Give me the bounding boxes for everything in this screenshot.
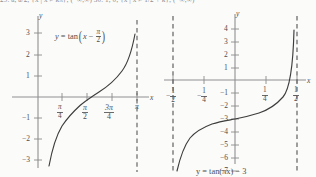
y-tick-label-3-right: 3 [224, 38, 228, 46]
y-tick-label-neg4-right: −4 [220, 128, 228, 136]
equation-open-paren: ( [79, 31, 82, 42]
y-tick-label-1-right: 1 [224, 64, 228, 72]
y-tick-label-1-left: 1 [26, 72, 30, 80]
x-tick-label-3pi-over-4-left: 3π 4 [104, 103, 114, 121]
equation-label-left: y = tan(x − π 2 ) [55, 29, 106, 45]
x-tick-numerator: π [82, 104, 88, 112]
equation-function: tan [68, 33, 78, 41]
x-tick-label-pi-over-4-left: π 4 [57, 103, 63, 120]
y-tick-label-neg2-left: −2 [22, 135, 30, 143]
x-tick-numerator: 1 [293, 87, 299, 94]
x-tick-denominator: 4 [104, 112, 114, 121]
equation-caption-right: y = tan(πx) − 3 [196, 168, 246, 176]
figure-page: 29. a, a/2; {x | x ≠ kπ}; (−∞,∞) 30. 1, … [0, 0, 316, 177]
x-tick-denominator: 4 [201, 96, 207, 104]
y-tick-label-2-left: 2 [26, 51, 30, 59]
y-tick-label-neg1-left: −1 [22, 114, 30, 122]
x-tick-sign: − [197, 92, 201, 100]
y-tick-label-neg5-right: −5 [220, 141, 228, 149]
chart-tan-x-minus-pi-over-2: y x 3 2 1 −1 −2 −3 π 4 π 2 3π 4 [0, 8, 156, 177]
answer-key-text: 29. a, a/2; {x | x ≠ kπ}; (−∞,∞) 30. 1, … [0, 0, 194, 4]
x-tick-denominator: 2 [170, 96, 176, 104]
x-tick-denominator: 2 [82, 112, 88, 121]
y-tick-label-neg2-right: −2 [220, 102, 228, 110]
y-tick-label-neg1-right: −1 [220, 89, 228, 97]
x-tick-denominator: 4 [57, 112, 63, 120]
x-tick-numerator: 1 [170, 88, 176, 95]
y-tick-label-neg3-left: −3 [22, 156, 30, 164]
equation-minus-sign: − [89, 33, 94, 41]
chart-tan-pi-x-minus-3: y x 4 3 2 1 −1 −2 −3 −4 −5 −6 −7 − 1 2 −… [156, 8, 316, 177]
equation-inner-fraction: π 2 [96, 29, 102, 45]
equation-inner-variable: x [83, 33, 87, 41]
x-tick-numerator: 3π [104, 104, 114, 112]
x-tick-label-neg-half-right: − 1 2 [166, 86, 176, 104]
equation-fraction-denominator: 2 [96, 36, 102, 44]
y-tick-label-3-left: 3 [26, 29, 30, 37]
x-axis-label-left: x [150, 94, 153, 102]
equation-close-paren: ) [102, 31, 105, 42]
asymptote-label-pi-left: π [135, 103, 139, 111]
plot-area-right [156, 8, 316, 177]
y-axis-label-left: y [39, 12, 42, 20]
x-tick-denominator: 2 [293, 95, 299, 103]
equation-equals: = [61, 33, 66, 41]
x-tick-label-pi-over-2-left: π 2 [82, 103, 88, 121]
x-tick-numerator: 1 [201, 88, 207, 95]
y-axis-label-right: y [236, 10, 239, 18]
x-tick-numerator: 1 [262, 87, 268, 94]
x-tick-numerator: π [57, 104, 63, 111]
plot-svg-right [156, 8, 316, 177]
y-tick-label-neg6-right: −6 [220, 154, 228, 162]
x-tick-label-quarter-right: 1 4 [262, 86, 268, 103]
y-tick-label-4-right: 4 [224, 25, 228, 33]
y-tick-label-neg3-right: −3 [220, 115, 228, 123]
x-tick-label-half-right: 1 2 [293, 86, 299, 103]
x-tick-sign: − [166, 92, 170, 100]
equation-fraction-numerator: π [96, 29, 102, 36]
y-tick-label-2-right: 2 [224, 51, 228, 59]
equation-lhs: y [55, 33, 59, 41]
x-axis-label-right: x [307, 77, 310, 85]
x-tick-denominator: 4 [262, 95, 268, 103]
x-tick-label-neg-quarter-right: − 1 4 [197, 86, 207, 104]
